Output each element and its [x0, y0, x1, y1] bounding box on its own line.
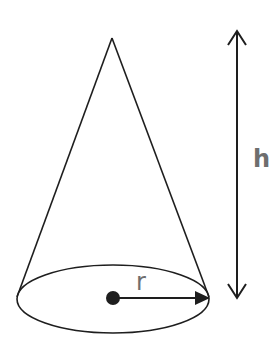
radius-arrow	[118, 291, 210, 305]
cone-diagram: r h	[0, 0, 279, 338]
height-label: h	[253, 145, 270, 173]
base-center-dot	[106, 291, 120, 305]
cone-outline	[17, 38, 209, 297]
height-arrow	[228, 31, 246, 298]
radius-label: r	[136, 268, 146, 296]
